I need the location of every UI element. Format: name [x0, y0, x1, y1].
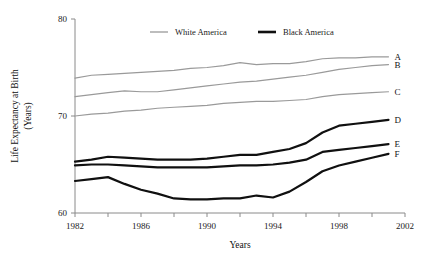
- y-tick-label: 80: [58, 14, 68, 24]
- series-end-label-e: E: [395, 139, 401, 149]
- series-end-label-d: D: [395, 115, 402, 125]
- x-tick-label: 1982: [66, 221, 84, 231]
- series-line-d: [75, 120, 389, 162]
- x-tick-label: 1994: [264, 221, 283, 231]
- y-axis-ticks: 607080: [58, 14, 75, 218]
- x-axis-title: Years: [229, 240, 251, 250]
- x-tick-label: 1998: [330, 221, 349, 231]
- series-line-c: [75, 92, 389, 116]
- x-tick-label: 1990: [198, 221, 217, 231]
- legend-label-white-america: White America: [175, 27, 227, 37]
- series-line-a: [75, 57, 389, 78]
- chart-container: 607080 198219861990199419982002 ABCDEF W…: [0, 0, 429, 254]
- series-line-f: [75, 154, 389, 200]
- series-end-label-c: C: [395, 87, 401, 97]
- series-end-labels: ABCDEF: [395, 52, 402, 159]
- legend-label-black-america: Black America: [283, 27, 334, 37]
- x-axis-ticks: 198219861990199419982002: [66, 213, 414, 231]
- y-tick-label: 70: [58, 111, 68, 121]
- x-tick-label: 2002: [396, 221, 414, 231]
- series-line-b: [75, 65, 389, 97]
- y-tick-label: 60: [58, 208, 68, 218]
- series-end-label-b: B: [395, 60, 401, 70]
- series-lines-group: [75, 57, 389, 200]
- y-axis-title-line2: (Years): [23, 102, 34, 130]
- x-tick-label: 1986: [132, 221, 151, 231]
- series-end-label-f: F: [395, 149, 400, 159]
- chart-legend: White AmericaBlack America: [150, 27, 334, 37]
- life-expectancy-line-chart: 607080 198219861990199419982002 ABCDEF W…: [0, 0, 429, 254]
- y-axis-title-line1: Life Expectancy at Birth: [10, 69, 20, 163]
